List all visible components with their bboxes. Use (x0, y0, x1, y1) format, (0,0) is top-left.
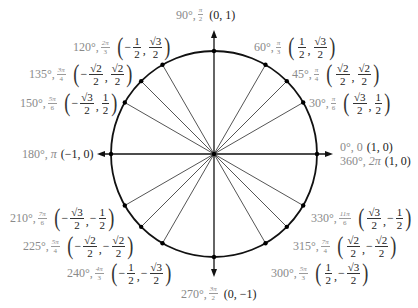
x-fraction: √32 (367, 206, 381, 231)
radian-label: 7π4 (321, 238, 330, 255)
degree-label: 180° (22, 148, 45, 160)
label-315: 315°,7π4(√22,−√22) (293, 233, 398, 259)
ray-120 (163, 65, 215, 154)
coordinate-label: (0, −1) (224, 288, 257, 300)
ray-330 (214, 154, 303, 206)
x-fraction: √22 (83, 234, 97, 259)
x-sign: − (119, 267, 126, 279)
x-sign: − (75, 240, 82, 252)
degree-label: 330° (311, 212, 334, 224)
x-fraction: 12 (133, 35, 141, 60)
coordinate-label: (12,−√32) (314, 260, 370, 286)
x-fraction: √32 (80, 91, 94, 116)
degree-label: 360° (340, 155, 363, 167)
point-150 (123, 100, 127, 104)
y-fraction: √32 (149, 35, 163, 60)
radian-label: 5π4 (51, 238, 60, 255)
degree-label: 210° (10, 212, 33, 224)
arrow-down-icon (211, 269, 217, 277)
radian-label: 4π3 (95, 265, 104, 282)
radian-label: 11π6 (339, 210, 351, 227)
y-fraction: 12 (375, 91, 383, 116)
radian-label: π3 (276, 39, 282, 56)
radian-label: π2 (198, 6, 204, 23)
radian-label: π (51, 148, 57, 160)
coordinate-label: (−√22,√22) (72, 61, 134, 87)
degree-label: 30° (309, 97, 326, 109)
point-210 (123, 203, 127, 207)
point-240 (160, 241, 164, 245)
point-180 (109, 152, 113, 156)
coordinate-label: (−√32,12) (63, 90, 119, 116)
degree-label: 0° (340, 141, 351, 153)
x-fraction: √32 (353, 91, 367, 116)
degree-label: 60° (254, 41, 271, 53)
point-300 (263, 241, 267, 245)
label-0: 0°, 0 (1, 0) (340, 141, 393, 153)
arrow-left-icon (97, 151, 105, 157)
radian-label: 0 (357, 141, 363, 153)
y-fraction: √22 (112, 234, 126, 259)
x-fraction: 12 (127, 261, 135, 286)
x-sign: − (81, 68, 88, 80)
x-fraction: 12 (325, 261, 333, 286)
coordinate-label: (√32,12) (342, 90, 391, 116)
label-225: 225°,5π4(−√22,−√22) (23, 233, 135, 259)
coordinate-label: (√22,−√22) (336, 233, 398, 259)
coordinate-label: (−12,−√32) (110, 260, 173, 286)
ray-225 (141, 154, 214, 227)
coordinate-label: (−1, 0) (61, 148, 94, 160)
x-sign: − (72, 97, 79, 109)
radian-label: π4 (314, 66, 320, 83)
y-fraction: √32 (150, 261, 164, 286)
degree-label: 150° (20, 97, 43, 109)
label-60: 60°,π3(12,√32) (254, 34, 337, 60)
radian-label: 3π2 (209, 285, 218, 302)
ray-30 (214, 103, 303, 155)
ray-240 (163, 154, 215, 243)
radian-label: 2π (369, 155, 381, 167)
point-330 (301, 203, 305, 207)
label-45: 45°,π4(√22,√22) (292, 61, 381, 87)
x-sign: − (62, 212, 69, 224)
coordinate-label: (1, 0) (367, 141, 393, 153)
x-fraction: √22 (336, 62, 350, 87)
coordinate-label: (0, 1) (209, 9, 235, 21)
y-fraction: 12 (396, 206, 404, 231)
origin-point (212, 152, 216, 156)
label-120: 120°,2π3(−12,√32) (73, 34, 172, 60)
y-sign: − (90, 212, 97, 224)
label-90: 90°, π2 (0, 1) (176, 6, 235, 23)
ray-45 (214, 81, 287, 154)
y-sign: − (338, 267, 345, 279)
degree-label: 240° (67, 267, 90, 279)
coordinate-label: (−√22,−√22) (66, 233, 135, 259)
label-270: 270°, 3π2 (0, −1) (181, 285, 257, 302)
arrow-right-icon (325, 151, 333, 157)
point-120 (160, 63, 164, 67)
y-fraction: √32 (347, 261, 361, 286)
arrow-up-icon (211, 30, 217, 38)
y-fraction: 12 (102, 91, 110, 116)
label-240: 240°,4π3(−12,−√32) (67, 260, 173, 286)
coordinate-label: (−12,√32) (116, 34, 172, 60)
y-sign: − (366, 240, 373, 252)
degree-label: 45° (292, 68, 309, 80)
radian-label: 5π3 (299, 265, 308, 282)
point-315 (285, 225, 289, 229)
label-135: 135°,3π4(−√22,√22) (29, 61, 134, 87)
point-60 (263, 63, 267, 67)
ray-60 (214, 65, 266, 154)
radian-label: 3π4 (57, 66, 66, 83)
point-0 (315, 152, 319, 156)
point-270 (212, 255, 216, 259)
label-300: 300°,5π3(12,−√32) (271, 260, 370, 286)
degree-label: 120° (73, 41, 96, 53)
label-210: 210°,7π6(−√32,−12) (10, 205, 116, 231)
label-330: 330°,11π6(√32,−12) (311, 205, 413, 231)
coordinate-label: (1, 0) (385, 155, 411, 167)
ray-150 (125, 103, 214, 155)
x-fraction: 12 (298, 35, 306, 60)
point-30 (301, 100, 305, 104)
point-45 (285, 79, 289, 83)
